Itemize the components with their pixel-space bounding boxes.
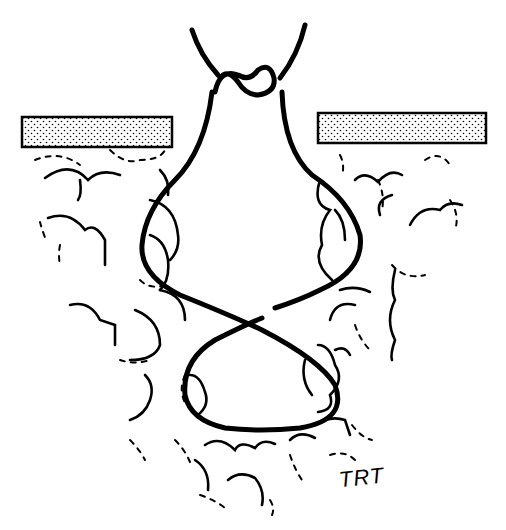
skin-surface-right (318, 113, 486, 143)
suture-end-left (192, 30, 218, 75)
suture-diagram (0, 0, 506, 530)
skin-surface-left (22, 117, 172, 147)
artist-signature: TRT (338, 463, 386, 494)
suture-knot (215, 67, 274, 95)
suture-end-right (280, 25, 305, 78)
illustration: TRT (0, 0, 506, 530)
suture (142, 25, 361, 430)
subcutaneous-fat-lobules (35, 150, 462, 515)
